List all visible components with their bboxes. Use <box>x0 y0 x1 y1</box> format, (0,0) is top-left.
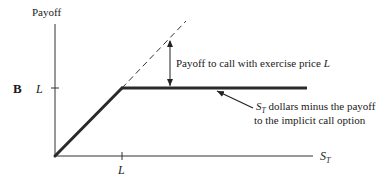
call-payoff-annotation: Payoff to call with exercise price L <box>176 57 330 69</box>
st-annotation-line1: ST dollars minus the payoff <box>256 100 376 115</box>
panel-label: B <box>13 81 22 96</box>
x-axis-label: ST <box>320 149 331 165</box>
payoff-rising-segment <box>55 88 122 156</box>
dashed-extension-line <box>122 21 186 88</box>
leader-arrow <box>217 91 253 108</box>
payoff-diagram: Payoff B L L ST Payoff to call with exer… <box>0 0 388 184</box>
y-axis-label: Payoff <box>32 6 61 18</box>
st-annotation-line2: to the implicit call option <box>254 114 366 126</box>
x-tick-label: L <box>117 163 125 177</box>
y-tick-label: L <box>35 82 43 96</box>
